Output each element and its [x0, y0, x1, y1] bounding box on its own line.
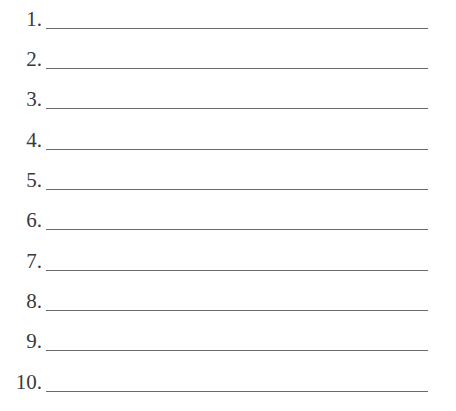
item-number: 7. — [26, 251, 42, 272]
blank-line[interactable] — [46, 270, 428, 271]
list-item: 9. — [0, 320, 456, 360]
list-item: 10. — [0, 361, 456, 401]
list-item: 8. — [0, 280, 456, 320]
blank-line[interactable] — [46, 350, 428, 351]
list-item: 4. — [0, 119, 456, 159]
item-number: 8. — [26, 291, 42, 312]
blank-line[interactable] — [46, 108, 428, 109]
item-number: 5. — [26, 170, 42, 191]
item-number: 2. — [26, 49, 42, 70]
item-number: 9. — [26, 331, 42, 352]
list-item: 3. — [0, 78, 456, 118]
blank-line[interactable] — [46, 189, 428, 190]
item-number: 6. — [26, 210, 42, 231]
list-item: 2. — [0, 38, 456, 78]
item-number: 4. — [26, 130, 42, 151]
item-number: 1. — [26, 9, 42, 30]
blank-line[interactable] — [46, 391, 428, 392]
item-number: 3. — [26, 89, 42, 110]
blank-line[interactable] — [46, 149, 428, 150]
list-item: 7. — [0, 240, 456, 280]
blank-line[interactable] — [46, 310, 428, 311]
blank-line[interactable] — [46, 229, 428, 230]
blank-line[interactable] — [46, 28, 428, 29]
list-item: 5. — [0, 159, 456, 199]
blank-line[interactable] — [46, 68, 428, 69]
list-item: 1. — [0, 0, 456, 38]
list-item: 6. — [0, 199, 456, 239]
item-number: 10. — [16, 372, 42, 393]
